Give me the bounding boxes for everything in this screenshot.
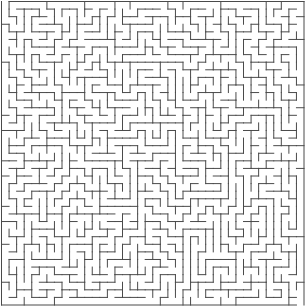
maze-grid bbox=[0, 0, 307, 308]
maze-board bbox=[0, 0, 307, 308]
